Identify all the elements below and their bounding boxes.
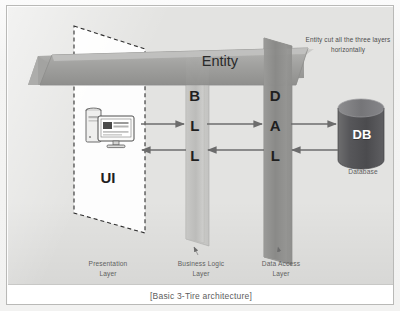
business-layer-caption: Business Logic Layer [158, 259, 244, 279]
dal-letter-l: L [266, 147, 285, 164]
data-access-layer-caption: Data Access Layer [240, 259, 322, 279]
entity-note-text: Entity cut all the three layers horizont… [300, 35, 394, 54]
presentation-layer-caption-line2: Layer [66, 269, 150, 279]
database-label: DB [340, 127, 384, 142]
dal-letter-a: A [266, 117, 285, 134]
presentation-layer-caption: Presentation Layer [66, 259, 150, 279]
leader-business-layer [194, 247, 198, 255]
dal-letter-d: D [266, 87, 285, 104]
database-caption: Database [336, 167, 390, 177]
presentation-layer-caption-line1: Presentation [66, 259, 150, 269]
bll-letter-b: B [186, 87, 204, 104]
figure-caption: [Basic 3-Tire architecture] [150, 291, 252, 301]
entity-banner-label: Entity [172, 53, 268, 69]
connector-arrows [141, 124, 338, 150]
figure-frame: Entity Entity cut all the three layers h… [6, 5, 394, 305]
data-access-layer-caption-line2: Layer [240, 269, 322, 279]
ui-box-label: UI [80, 169, 136, 186]
business-layer-caption-line1: Business Logic [158, 259, 244, 269]
bll-letter-l2: L [186, 147, 204, 164]
figure-caption-strip: [Basic 3-Tire architecture] [8, 284, 394, 305]
architecture-diagram: Entity Entity cut all the three layers h… [8, 7, 394, 284]
scanned-page: Entity Entity cut all the three layers h… [0, 0, 400, 311]
data-access-layer-caption-line1: Data Access [240, 259, 322, 269]
bll-letter-l1: L [186, 117, 204, 134]
business-layer-caption-line2: Layer [158, 269, 244, 279]
